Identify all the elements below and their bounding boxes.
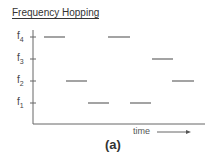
y-label-f3: f3 <box>17 52 24 65</box>
y-label-f4: f4 <box>17 30 24 43</box>
x-axis-label: time <box>133 126 150 136</box>
arrow-right-icon <box>186 130 191 134</box>
y-label-f1: f1 <box>17 96 24 109</box>
figure-caption: (a) <box>105 137 121 152</box>
y-label-f2: f2 <box>17 74 24 87</box>
hop-segments <box>44 37 194 103</box>
